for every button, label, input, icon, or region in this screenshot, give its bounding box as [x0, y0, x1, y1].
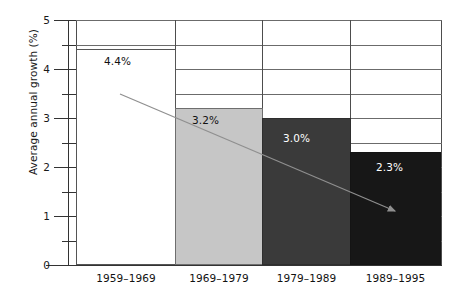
plot-area: 4.4% 3.2% 3.0% 2.3%	[76, 20, 442, 265]
y-tick-label-4: 4	[24, 64, 50, 75]
y-minor-tick-4-5	[62, 45, 76, 46]
y-tick-0	[54, 265, 76, 266]
y-tick-5	[54, 20, 76, 21]
bar-label-1969-1979: 3.2%	[192, 114, 219, 126]
y-tick-4	[54, 69, 76, 70]
y-tick-label-3: 3	[24, 113, 50, 124]
gridline-4-5	[76, 45, 442, 46]
x-axis-label-1969-1979: 1969–1979	[175, 272, 263, 284]
y-minor-tick-1-5	[62, 192, 76, 193]
y-tick-label-5: 5	[24, 15, 50, 26]
y-tick-label-0: 0	[24, 260, 50, 271]
y-tick-label-1: 1	[24, 211, 50, 222]
y-minor-tick-2-5	[62, 143, 76, 144]
y-axis-title: Average annual growth (%)	[27, 0, 39, 207]
x-axis-label-1979-1989: 1979–1989	[262, 272, 351, 284]
y-minor-tick-3-5	[62, 94, 76, 95]
y-minor-tick-0-5	[62, 241, 76, 242]
y-tick-label-2: 2	[24, 162, 50, 173]
y-tick-3	[54, 118, 76, 119]
y-tick-2	[54, 167, 76, 168]
bar-label-1989-1995: 2.3%	[376, 161, 403, 173]
bar-chart: Average annual growth (%) 0 1 2 3 4 5	[0, 0, 463, 294]
y-tick-1	[54, 216, 76, 217]
gridline-5-0	[76, 20, 442, 21]
bar-1959-1969[interactable]	[76, 49, 176, 265]
bar-label-1959-1969: 4.4%	[104, 55, 131, 67]
bar-1969-1979[interactable]	[175, 108, 263, 265]
x-axis-line	[46, 265, 442, 266]
x-axis-label-1989-1995: 1989–1995	[350, 272, 441, 284]
x-axis-label-1959-1969: 1959–1969	[76, 272, 176, 284]
bar-label-1979-1989: 3.0%	[283, 132, 310, 144]
